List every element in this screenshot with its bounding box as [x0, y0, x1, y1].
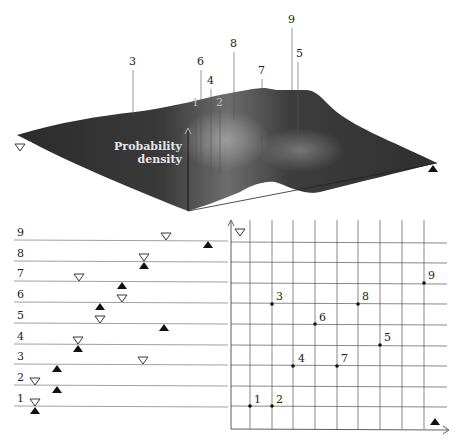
filled-triangle-markers [30, 241, 213, 414]
peak-label-5: 5 [296, 47, 303, 60]
row-label-6: 6 [17, 288, 24, 301]
row-label-8: 8 [17, 247, 24, 260]
density-surface [17, 88, 437, 212]
point-label-1: 1 [254, 393, 261, 406]
peak-label-7: 7 [258, 64, 265, 77]
peak-label-6: 6 [197, 55, 204, 68]
point-label-6: 6 [319, 311, 326, 324]
peak-label-4: 4 [207, 74, 214, 87]
figure-canvas [0, 0, 456, 440]
filled-triangle-icon [428, 165, 438, 172]
row-label-7: 7 [17, 267, 24, 280]
grid-axes [228, 220, 449, 434]
peak-label-1: 1 [192, 96, 199, 109]
open-triangle-icon [15, 144, 25, 151]
row-label-3: 3 [17, 350, 24, 363]
point-label-8: 8 [362, 290, 369, 303]
point-label-9: 9 [428, 269, 435, 282]
row-chart [14, 233, 228, 414]
row-label-4: 4 [17, 330, 24, 343]
axis-label-probability: Probability [102, 140, 182, 153]
row-label-2: 2 [17, 371, 24, 384]
point-label-5: 5 [384, 331, 391, 344]
peak-label-3: 3 [129, 55, 136, 68]
row-label-5: 5 [17, 309, 24, 322]
peak-label-8: 8 [230, 37, 237, 50]
grid-chart [228, 220, 449, 434]
point-label-4: 4 [298, 352, 305, 365]
point-label-3: 3 [276, 290, 283, 303]
row-label-9: 9 [17, 226, 24, 239]
axis-label-density: density [102, 153, 182, 166]
open-triangle-markers [30, 233, 171, 406]
row-label-1: 1 [17, 392, 24, 405]
filled-triangle-icon [430, 418, 440, 425]
open-triangle-icon [235, 229, 245, 236]
point-label-7: 7 [341, 352, 348, 365]
point-label-2: 2 [276, 393, 283, 406]
peak-label-9: 9 [288, 13, 295, 26]
peak-label-2: 2 [216, 96, 223, 109]
